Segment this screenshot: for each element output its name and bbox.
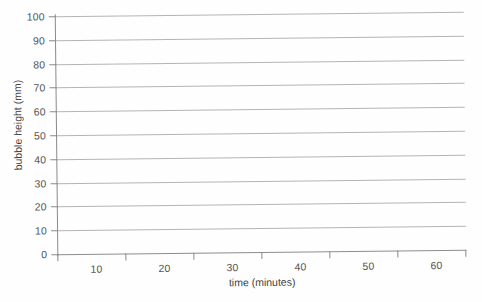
gridline-90 — [55, 36, 464, 41]
x-tick-label-30: 30 — [212, 262, 252, 273]
gridline-60 — [56, 107, 465, 112]
plot-rotator: 100 90 80 70 60 50 40 30 20 10 0 10 20 3… — [0, 0, 482, 302]
y-tick-label-10: 10 — [17, 225, 47, 236]
y-tick-100 — [49, 16, 56, 17]
y-tick-10 — [51, 230, 58, 231]
x-tick-label-60: 60 — [416, 260, 456, 271]
y-tick-label-0: 0 — [17, 249, 47, 260]
x-tick-60 — [465, 250, 466, 257]
gridline-50 — [56, 131, 465, 136]
x-tick-label-40: 40 — [280, 261, 320, 272]
y-tick-labels: 100 90 80 70 60 50 40 30 20 10 0 — [0, 2, 48, 302]
y-tick-70 — [50, 87, 57, 88]
y-tick-label-90: 90 — [15, 35, 45, 46]
y-axis-title: bubble height (mm) — [12, 60, 24, 190]
x-tick-label-20: 20 — [144, 263, 184, 274]
x-tick-0 — [57, 254, 58, 261]
gridline-20 — [57, 202, 466, 207]
y-tick-20 — [51, 206, 58, 207]
gridline-80 — [55, 60, 464, 65]
y-tick-40 — [50, 159, 57, 160]
x-tick-label-50: 50 — [348, 261, 388, 272]
x-tick-label-10: 10 — [76, 264, 116, 275]
x-tick-50 — [397, 251, 398, 258]
gridline-100 — [55, 12, 464, 17]
y-tick-30 — [51, 183, 58, 184]
x-tick-20 — [193, 253, 194, 260]
y-tick-label-100: 100 — [15, 11, 45, 22]
y-tick-60 — [50, 111, 57, 112]
x-axis-title: time (minutes) — [58, 275, 467, 290]
chart-figure: 100 90 80 70 60 50 40 30 20 10 0 10 20 3… — [0, 0, 482, 302]
y-tick-label-20: 20 — [17, 201, 47, 212]
y-tick-90 — [49, 40, 56, 41]
plot-area — [55, 12, 467, 254]
gridline-10 — [57, 226, 466, 231]
x-tick-40 — [329, 251, 330, 258]
y-tick-50 — [50, 135, 57, 136]
x-tick-30 — [261, 252, 262, 259]
gridline-70 — [56, 83, 465, 88]
y-tick-80 — [49, 64, 56, 65]
x-tick-10 — [125, 253, 126, 260]
gridline-30 — [57, 179, 466, 184]
gridline-40 — [56, 155, 465, 160]
